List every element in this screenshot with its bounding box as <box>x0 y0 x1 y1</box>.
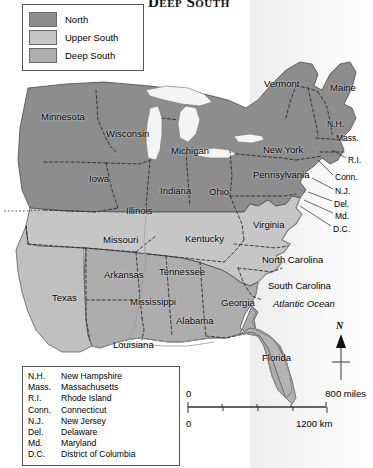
abbreviation-key-text: D.C. <box>28 449 61 460</box>
abbreviation-key-text: Mass. <box>28 382 61 393</box>
map-abbrev-r-i: R.I. <box>348 155 361 165</box>
abbreviation-key-text: N.H. <box>28 371 61 382</box>
state-label-missouri: Missouri <box>103 234 138 245</box>
abbreviation-value-text: Connecticut <box>61 405 174 416</box>
map-abbrev-conn: Conn. <box>335 172 358 182</box>
abbreviation-key-text: Conn. <box>28 405 61 416</box>
abbreviation-row: Del.Delaware <box>28 427 174 438</box>
legend-row: Deep South <box>29 47 137 64</box>
abbreviation-key-text: Md. <box>28 438 61 449</box>
abbreviation-row: Conn.Connecticut <box>28 405 174 416</box>
state-label-alabama: Alabama <box>176 315 214 326</box>
legend-label-deep-south: Deep South <box>65 50 115 61</box>
map-abbrev-md: Md. <box>335 211 349 221</box>
state-label-wisconsin: Wisconsin <box>106 128 149 139</box>
legend-swatch-deep-south <box>29 48 57 63</box>
map-figure: Deep South MinnesotaWisconsinMichiganIow… <box>0 0 373 468</box>
state-label-pennsylvania: Pennsylvania <box>253 169 310 180</box>
state-label-south-carolina: South Carolina <box>268 280 331 291</box>
abbreviation-row: R.I.Rhode Island <box>28 393 174 404</box>
north-arrow-icon <box>330 322 352 382</box>
scale-km-zero: 0 <box>186 418 191 429</box>
legend-row: Upper South <box>29 29 137 46</box>
state-label-north-carolina: North Carolina <box>262 254 323 265</box>
abbreviation-value-text: New Hampshire <box>61 371 174 382</box>
legend-label-north: North <box>65 14 88 25</box>
abbreviation-row: N.J.New Jersey <box>28 416 174 427</box>
abbreviation-row: Md.Maryland <box>28 438 174 449</box>
legend-label-upper-south: Upper South <box>65 32 118 43</box>
scale-bars: 0 800 miles 0 1200 km <box>186 388 366 432</box>
map-abbrev-del: Del. <box>334 199 349 209</box>
abbreviation-row: Mass.Massachusetts <box>28 382 174 393</box>
abbreviation-value-text: New Jersey <box>61 416 174 427</box>
abbreviation-key: N.H.New HampshireMass.MassachusettsR.I.R… <box>22 366 180 466</box>
abbreviation-key-text: N.J. <box>28 416 61 427</box>
map-legend: North Upper South Deep South <box>22 4 144 71</box>
abbreviation-row: N.H.New Hampshire <box>28 371 174 382</box>
state-label-mississippi: Mississippi <box>130 296 176 307</box>
abbreviation-value-text: Rhode Island <box>61 393 174 404</box>
state-label-maine: Maine <box>330 82 356 93</box>
map-abbrev-n-j: N.J. <box>335 186 350 196</box>
legend-swatch-upper-south <box>29 30 57 45</box>
state-label-georgia: Georgia <box>221 297 255 308</box>
legend-row: North <box>29 11 137 28</box>
north-arrow: N <box>330 322 352 382</box>
abbreviation-row: D.C.District of Columbia <box>28 449 174 460</box>
state-label-texas: Texas <box>52 292 77 303</box>
state-label-minnesota: Minnesota <box>41 111 85 122</box>
abbreviation-value-text: Delaware <box>61 427 174 438</box>
state-label-indiana: Indiana <box>160 185 191 196</box>
state-label-iowa: Iowa <box>89 173 109 184</box>
state-label-ohio: Ohio <box>209 186 229 197</box>
water-label-atlantic-ocean: Atlantic Ocean <box>273 298 335 309</box>
state-label-vermont: Vermont <box>264 78 299 89</box>
map-abbrev-d-c: D.C. <box>333 224 350 234</box>
map-abbrev-n-h: N.H. <box>327 119 344 129</box>
abbreviation-value-text: District of Columbia <box>61 449 174 460</box>
map-abbrev-mass: Mass. <box>336 133 359 143</box>
abbreviation-key-text: R.I. <box>28 393 61 404</box>
state-label-new-york: New York <box>263 144 303 155</box>
scale-miles-zero: 0 <box>186 388 191 399</box>
state-label-arkansas: Arkansas <box>104 269 144 280</box>
state-label-virginia: Virginia <box>253 219 285 230</box>
map-title: Deep South <box>148 0 368 11</box>
state-label-kentucky: Kentucky <box>185 233 224 244</box>
state-label-illinois: Illinois <box>126 205 152 216</box>
north-arrow-label: N <box>336 320 343 331</box>
legend-swatch-north <box>29 12 57 27</box>
scale-km-max: 1200 km <box>296 418 332 429</box>
abbreviation-value-text: Massachusetts <box>61 382 174 393</box>
state-label-florida: Florida <box>262 352 291 363</box>
state-label-michigan: Michigan <box>171 145 209 156</box>
abbreviation-value-text: Maryland <box>61 438 174 449</box>
state-label-louisiana: Louisiana <box>113 339 154 350</box>
scale-bar-graphic <box>186 401 366 417</box>
abbreviation-key-text: Del. <box>28 427 61 438</box>
state-label-tennessee: Tennessee <box>159 266 205 277</box>
scale-miles-max: 800 miles <box>325 388 366 399</box>
